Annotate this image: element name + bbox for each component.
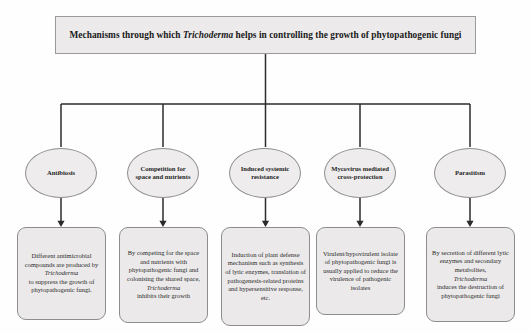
node-label-mycovirus-mediated-cross-protection: Mycovirus mediated cross-protection xyxy=(325,165,395,182)
node-ellipse-parasitism: Parasitism xyxy=(434,148,506,198)
detail-pre-antibiosis: Different antimicrobial compounds are pr… xyxy=(21,252,102,269)
detail-text-induced-systemic-resistance: Induction of plant defense mechanism suc… xyxy=(225,251,306,303)
detail-pre-competition: By competing for the space and nutrients… xyxy=(123,249,204,283)
node-label-competition: Competition for space and nutrients xyxy=(128,165,198,182)
detail-box-induced-systemic-resistance: Induction of plant defense mechanism suc… xyxy=(221,227,310,326)
detail-text-mycovirus-mediated-cross-protection: Virulent/hypovirulent isolate of phytopa… xyxy=(320,250,401,293)
node-ellipse-mycovirus-mediated-cross-protection: Mycovirus mediated cross-protection xyxy=(324,148,396,198)
detail-text-antibiosis: Different antimicrobial compounds are pr… xyxy=(21,252,102,295)
node-label-antibiosis: Antibiosis xyxy=(43,169,79,177)
title-segment-post: helps in controlling the growth of phyto… xyxy=(233,30,461,40)
node-ellipse-induced-systemic-resistance: Induced systemic resistance xyxy=(229,148,301,198)
detail-italic-parasitism: Trichoderma xyxy=(454,275,488,282)
diagram-title-box: Mechanisms through which Trichoderma hel… xyxy=(55,16,476,54)
detail-italic-antibiosis: Trichoderma xyxy=(45,269,79,276)
node-label-parasitism: Parasitism xyxy=(451,169,489,177)
detail-box-antibiosis: Different antimicrobial compounds are pr… xyxy=(17,227,106,320)
detail-text-competition: By competing for the space and nutrients… xyxy=(123,249,204,301)
diagram-canvas: Mechanisms through which Trichoderma hel… xyxy=(0,0,531,334)
detail-italic-competition: Trichoderma xyxy=(147,284,181,291)
node-ellipse-antibiosis: Antibiosis xyxy=(25,148,97,198)
diagram-title-text: Mechanisms through which Trichoderma hel… xyxy=(70,29,462,42)
detail-box-parasitism: By secretion of different lytic enzymes … xyxy=(426,227,515,322)
title-segment-italic: Trichoderma xyxy=(183,30,233,40)
detail-text-parasitism: By secretion of different lytic enzymes … xyxy=(430,249,511,301)
detail-box-mycovirus-mediated-cross-protection: Virulent/hypovirulent isolate of phytopa… xyxy=(316,227,405,315)
detail-post-competition: inhibits their growth xyxy=(123,292,204,301)
detail-box-competition: By competing for the space and nutrients… xyxy=(119,227,208,323)
node-ellipse-competition: Competition for space and nutrients xyxy=(127,148,199,198)
detail-pre-parasitism: By secretion of different lytic enzymes … xyxy=(430,249,511,275)
node-label-induced-systemic-resistance: Induced systemic resistance xyxy=(230,165,300,182)
title-segment-pre: Mechanisms through which xyxy=(70,30,183,40)
detail-post-antibiosis: to suppress the growth of phytopathogeni… xyxy=(21,278,102,295)
detail-post-parasitism: induces the destruction of phytopathogen… xyxy=(430,283,511,300)
